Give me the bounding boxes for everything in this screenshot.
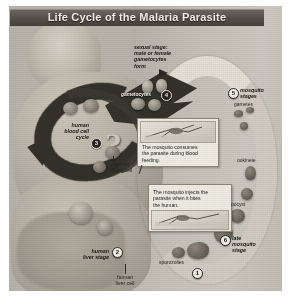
caption-line-3: the human. [153,202,229,208]
badge-4-number: 4 [165,92,168,98]
gametocytes-text: gametocytes [121,91,151,97]
badge-3: 3 [91,138,102,149]
inset-blood-feeding-caption: The mosquito consumes the parasite durin… [142,144,216,163]
label-ookinete: ookinete [237,158,256,164]
gamete-blob-b [246,107,254,113]
human-blood-cell-leader [113,156,114,162]
label-oocyst: oocyst [231,202,245,208]
human-liver-cell-leader [125,264,126,274]
ms-line-2: stages [240,93,282,99]
liver-stage-cell-a [69,202,93,224]
gametes-text: gametes [234,101,253,107]
sexual-stage-line-4: form [134,63,206,69]
scanned-figure: ? The mosquito consumes the para [0,0,291,301]
badge-1-number: 1 [196,270,199,276]
badge-6: 6 [220,235,231,246]
label-sexual-stage: sexual stage: male or female gametocytes… [134,44,206,69]
label-human-liver-cell: human liver cell [101,274,149,286]
label-gametes: gametes [234,102,253,108]
hbcc-line-3: cycle [37,134,89,140]
infected-blood-cell-b [83,99,99,113]
label-human-liver-stage: human liver stage [53,248,109,260]
figure-plate: ? The mosquito consumes the para [9,6,282,291]
label-gametocytes: gametocytes [121,92,151,98]
gametocyte-cell-c [131,98,145,110]
gamete-blob-c [240,122,248,130]
oocyst-text: oocyst [231,201,245,207]
ookinete-blob [245,166,256,180]
oocyst-blob-small [241,188,253,200]
hbc-line-2: blood cell [97,167,145,173]
badge-6-number: 6 [224,237,227,243]
badge-2-number: 2 [116,249,119,255]
label-mosquito-stages: mosquito stages [240,87,282,99]
infected-blood-cell-a [63,102,78,115]
figure-title: Life Cycle of the Malaria Parasite [10,9,264,26]
sporozoite-cluster-blob [187,242,209,259]
oocyst-blob-medium [230,209,245,223]
inset-blood-feeding: The mosquito consumes the parasite durin… [137,118,219,167]
badge-1: 1 [192,268,203,279]
sporozoite-blob-small [172,247,185,258]
sporozoites-text: sporozoites [159,259,184,265]
caption-line-3: feeding. [142,157,216,163]
inset-injection: The mosquito injects the parasite when i… [148,184,232,232]
label-human-blood-cell-cycle: human blood cell cycle [37,122,89,141]
label-human-blood-cell: human blood cell [97,161,145,173]
label-sporozoites: sporozoites [159,260,184,266]
badge-2: 2 [112,247,123,258]
mosquito-injecting-icon [153,211,227,227]
badge-3-number: 3 [95,140,98,146]
gametocyte-cell-d [148,99,161,111]
figure-title-bar: Life Cycle of the Malaria Parasite [10,9,264,26]
inset-injection-caption: The mosquito injects the parasite when i… [153,189,229,208]
badge-4: 4 [161,90,172,101]
badge-5: 5 [228,88,239,99]
badge-5-number: 5 [232,90,235,96]
lms-line-3: stage [232,247,276,253]
ookinete-text: ookinete [237,157,256,163]
mosquito-feeding-icon [142,123,216,141]
liver-stage-cell-b [97,220,113,235]
hls-line-2: liver stage [53,254,109,260]
hlc-line-2: liver cell [101,280,149,286]
gamete-blob-a [234,110,243,117]
label-late-mosquito-stage: late mosquito stage [232,235,276,254]
sexual-stage-arrow [159,69,168,77]
